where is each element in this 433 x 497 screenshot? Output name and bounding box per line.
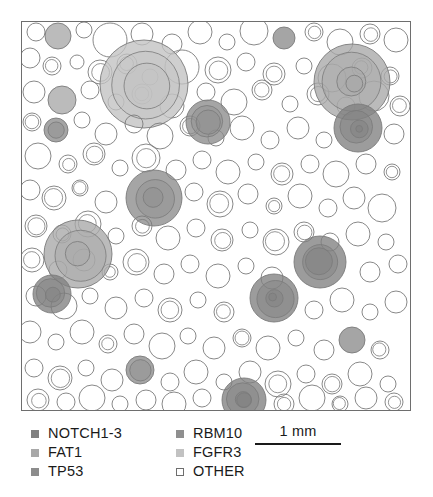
clone-bubble — [305, 23, 323, 41]
scale-bar-label: 1 mm — [255, 424, 341, 443]
legend-label-notch1-3: NOTCH1-3 — [48, 426, 122, 441]
clone-bubble — [82, 288, 98, 304]
clone-bubble — [197, 83, 215, 101]
clone-bubble — [186, 100, 230, 144]
clone-bubble — [70, 55, 84, 69]
clone-bubble — [368, 194, 396, 222]
clone-bubble — [348, 362, 372, 386]
clone-bubble — [314, 340, 334, 360]
clone-bubble — [48, 86, 76, 114]
clone-bubble — [356, 154, 376, 174]
legend-item-tp53[interactable]: TP53 — [31, 462, 122, 481]
legend-item-fgfr3[interactable]: FGFR3 — [176, 443, 245, 462]
clone-bubble — [266, 198, 282, 214]
clone-bubble — [76, 22, 92, 38]
clone-bubble — [95, 191, 117, 213]
clone-bubble — [287, 117, 309, 139]
clone-bubble — [43, 57, 61, 75]
clone-bubble — [211, 229, 233, 251]
clone-bubble — [105, 297, 127, 319]
clone-bubble — [57, 393, 75, 410]
clone-bubble — [22, 48, 40, 68]
plot-area — [21, 21, 411, 411]
clone-bubble — [185, 183, 203, 201]
clone-bubble — [297, 365, 315, 383]
clone-bubble — [301, 155, 319, 173]
clone-bubble — [238, 258, 254, 274]
clone-bubble — [206, 264, 230, 288]
clone-bubble — [203, 337, 225, 359]
legend-label-other: OTHER — [193, 464, 245, 479]
clone-bubble — [219, 34, 235, 50]
clone-bubble — [299, 385, 325, 410]
clone-bubble — [378, 234, 394, 250]
clone-bubble — [380, 376, 396, 392]
clone-bubble — [45, 23, 71, 49]
clone-bubble — [222, 378, 266, 410]
clone-bubble — [362, 304, 378, 320]
clone-bubble — [112, 396, 128, 410]
clone-bubble — [101, 369, 123, 391]
clone-bubble — [181, 255, 199, 273]
clone-bubble — [385, 393, 403, 410]
clone-bubble — [81, 81, 99, 99]
clone-bubble — [162, 392, 186, 410]
clone-bubble — [355, 387, 377, 409]
clone-bubble — [25, 359, 43, 377]
clone-bubble — [296, 58, 312, 74]
clone-bubble — [126, 170, 182, 226]
clone-bubble — [23, 81, 45, 103]
clone-bubble — [126, 356, 154, 384]
clone-bubble — [154, 264, 174, 284]
clone-bubble — [74, 112, 90, 128]
legend-swatch-tp53 — [31, 468, 39, 476]
clone-bubble — [187, 219, 205, 237]
clone-bubble — [385, 291, 407, 313]
clone-bubble — [135, 289, 153, 307]
clone-bubble — [242, 222, 258, 238]
clone-bubble — [25, 143, 51, 169]
clone-bubble — [25, 215, 47, 237]
legend-item-fat1[interactable]: FAT1 — [31, 443, 122, 462]
legend-item-rbm10[interactable]: RBM10 — [176, 424, 245, 443]
clone-bubble — [265, 371, 291, 397]
legend: NOTCH1-3 FAT1 TP53 RBM10 FGFR3 OTH — [21, 424, 411, 486]
clone-bubble — [48, 334, 64, 350]
clone-bubble — [332, 396, 348, 410]
clone-bubble — [22, 180, 40, 200]
legend-item-notch1-3[interactable]: NOTCH1-3 — [31, 424, 122, 443]
legend-swatch-fgfr3 — [176, 449, 184, 457]
clone-bubble — [384, 28, 408, 52]
clone-bubble — [371, 341, 389, 359]
clone-bubble — [184, 360, 208, 384]
legend-label-tp53: TP53 — [48, 464, 83, 479]
clone-bubble — [288, 184, 312, 208]
clone-bubble — [319, 199, 337, 217]
clone-bubble — [205, 57, 231, 83]
clone-bubble — [78, 360, 94, 376]
clone-bubble — [123, 249, 149, 275]
clone-bubble — [263, 229, 289, 255]
legend-label-fgfr3: FGFR3 — [193, 445, 242, 460]
legend-swatch-notch1-3 — [31, 430, 39, 438]
clone-bubble — [132, 144, 160, 172]
clone-bubble — [294, 236, 346, 288]
legend-label-rbm10: RBM10 — [193, 426, 242, 441]
clone-bubble — [360, 24, 380, 44]
clone-bubble — [44, 118, 68, 142]
clone-bubble — [273, 27, 295, 49]
clone-bubble — [384, 164, 400, 180]
clone-bubble — [136, 390, 156, 410]
clone-bubble — [256, 336, 280, 360]
clone-bubble — [22, 321, 41, 343]
clone-bubble — [149, 333, 175, 359]
clone-bubble — [250, 274, 298, 322]
clone-bubble — [83, 143, 105, 165]
clone-bubble — [72, 180, 88, 196]
clone-bubble — [158, 298, 182, 322]
legend-swatch-rbm10 — [176, 430, 184, 438]
clone-bubble — [240, 22, 268, 45]
clone-bubble — [27, 389, 49, 410]
clone-bubble — [99, 335, 117, 353]
legend-item-other[interactable]: OTHER — [176, 462, 245, 481]
